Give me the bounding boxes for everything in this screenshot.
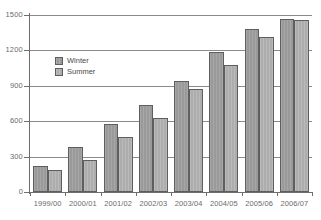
y-tick-label: 1500: [6, 10, 24, 19]
legend-swatch-winter-icon: [55, 57, 63, 65]
x-tick-mark: [312, 192, 313, 196]
bar-summer-2006-07: [294, 20, 309, 192]
y-tick-mark: [24, 121, 29, 122]
x-tick-mark: [65, 192, 66, 196]
y-tick-label: 600: [10, 116, 23, 125]
x-tick-label: 2005/06: [242, 199, 277, 208]
legend-item-summer: Summer: [55, 66, 95, 77]
y-tick-mark: [24, 86, 29, 87]
bar-summer-1999-00: [48, 170, 63, 192]
bar-summer-2005-06: [259, 37, 274, 192]
x-tick-label: 2001/02: [101, 199, 136, 208]
x-tick-mark: [136, 192, 137, 196]
bar-winter-2003-04: [174, 81, 189, 193]
bar-summer-2001-02: [118, 137, 133, 192]
x-tick-mark: [101, 192, 102, 196]
x-tick-label: 2004/05: [206, 199, 241, 208]
y-tick-label-wrap: 300: [0, 152, 23, 162]
y-tick-label: 300: [10, 152, 23, 161]
x-tick-label: 2002/03: [136, 199, 171, 208]
bar-winter-2005-06: [245, 29, 260, 192]
chart-legend: Winter Summer: [52, 53, 99, 79]
legend-swatch-summer-icon: [55, 68, 63, 76]
x-tick-mark: [242, 192, 243, 196]
y-tick-label-wrap: 900: [0, 81, 23, 91]
bar-summer-2000-01: [83, 160, 98, 192]
x-tick-label: 1999/00: [30, 199, 65, 208]
bar-winter-2004-05: [209, 52, 224, 192]
x-tick-mark: [30, 192, 31, 196]
bar-winter-2006-07: [280, 19, 295, 192]
legend-label-winter: Winter: [67, 57, 89, 65]
y-tick-label: 900: [10, 81, 23, 90]
x-tick-mark: [171, 192, 172, 196]
bar-winter-2001-02: [104, 124, 119, 192]
bar-summer-2002-03: [153, 118, 168, 192]
x-tick-mark: [277, 192, 278, 196]
y-tick-mark: [24, 192, 29, 193]
y-tick-label-wrap: 1200: [0, 45, 23, 55]
bar-chart: 030060090012001500 1999/002000/012001/02…: [0, 0, 321, 220]
y-tick-label-wrap: 0: [0, 187, 23, 197]
legend-item-winter: Winter: [55, 55, 95, 66]
y-tick-mark: [24, 50, 29, 51]
y-tick-label-wrap: 600: [0, 116, 23, 126]
y-tick-mark: [24, 15, 29, 16]
bar-winter-2000-01: [68, 147, 83, 192]
x-tick-label: 2000/01: [65, 199, 100, 208]
bar-winter-1999-00: [33, 166, 48, 192]
x-tick-label: 2003/04: [171, 199, 206, 208]
x-tick-label: 2006/07: [277, 199, 312, 208]
y-tick-mark: [24, 157, 29, 158]
bar-summer-2004-05: [224, 65, 239, 192]
bar-winter-2002-03: [139, 105, 154, 192]
plot-area: [30, 15, 312, 192]
y-tick-label-wrap: 1500: [0, 10, 23, 20]
bar-summer-2003-04: [189, 89, 204, 192]
y-tick-label: 1200: [6, 45, 24, 54]
y-tick-label: 0: [19, 187, 23, 196]
x-tick-mark: [206, 192, 207, 196]
legend-label-summer: Summer: [67, 68, 95, 76]
